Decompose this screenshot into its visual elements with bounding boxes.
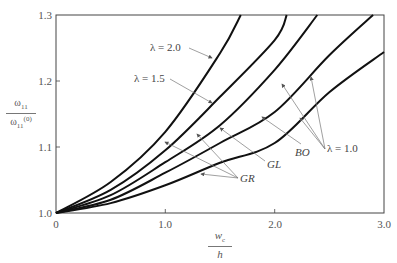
y-axis-label: ω11 ω11(0) bbox=[6, 98, 36, 130]
label-lambda-1-0: λ = 1.0 bbox=[327, 142, 358, 154]
y-tick-0: 1.0 bbox=[38, 207, 52, 219]
x-tick-2: 2.0 bbox=[268, 218, 282, 230]
curves bbox=[56, 15, 384, 213]
label-bo: BO bbox=[295, 146, 310, 158]
plot-frame bbox=[56, 15, 384, 213]
label-lambda-1-5: λ = 1.5 bbox=[134, 72, 165, 84]
chart: 0 1.0 2.0 3.0 1.0 1.1 1.2 1.3 λ = 2.0 λ … bbox=[0, 0, 397, 263]
x-tick-0: 0 bbox=[53, 218, 59, 230]
label-gr: GR bbox=[240, 172, 255, 184]
y-axis-label-numerator: ω11 bbox=[6, 98, 36, 114]
x-axis-label-numerator: wc bbox=[208, 230, 232, 247]
label-lambda-2-0: λ = 2.0 bbox=[150, 41, 181, 53]
x-tick-3: 3.0 bbox=[377, 218, 391, 230]
label-gl: GL bbox=[267, 158, 281, 170]
y-axis-label-denominator: ω11(0) bbox=[6, 114, 36, 130]
x-axis-label-denominator: h bbox=[208, 247, 232, 260]
curve-4 bbox=[56, 15, 373, 213]
x-ticks bbox=[165, 209, 274, 213]
y-tick-2: 1.2 bbox=[38, 75, 52, 87]
y-tick-1: 1.1 bbox=[38, 141, 52, 153]
curve-1 bbox=[56, 15, 241, 213]
curve-3 bbox=[56, 15, 317, 213]
y-tick-3: 1.3 bbox=[38, 9, 52, 21]
x-axis-label: wc h bbox=[208, 230, 232, 260]
y-ticks bbox=[56, 81, 60, 147]
annotation-arrows bbox=[165, 48, 325, 178]
x-tick-1: 1.0 bbox=[158, 218, 172, 230]
curve-5 bbox=[56, 52, 384, 213]
